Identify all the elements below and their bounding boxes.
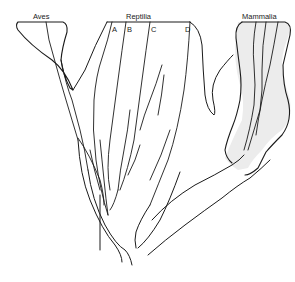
aves-stem [61, 60, 88, 170]
reptilia-left-edge [73, 22, 107, 90]
aves-inner-line [46, 22, 78, 140]
mammalia-shading [225, 22, 290, 170]
reptilia-right-edge [190, 22, 233, 115]
trunk [135, 205, 150, 248]
reptilia-label: Reptilia [126, 13, 151, 21]
mammalia-label: Mammalia [242, 13, 277, 21]
lineage-c [120, 22, 150, 190]
lineage-d [150, 22, 190, 205]
lineage-label-b: B [127, 26, 132, 34]
branch [110, 190, 118, 210]
branch [90, 150, 100, 190]
phylogeny-diagram [0, 0, 295, 282]
lineage-c-branch [140, 65, 162, 130]
lineage-b [108, 22, 126, 190]
lineage-c-branch-2 [158, 75, 164, 115]
lineage-label-c: C [151, 26, 156, 34]
aves-label: Aves [33, 13, 50, 21]
trunk [88, 170, 132, 265]
branch [150, 130, 170, 180]
lineage-label-a: A [112, 26, 117, 34]
aves-outline [17, 22, 74, 90]
lineage-label-d: D [185, 26, 190, 34]
